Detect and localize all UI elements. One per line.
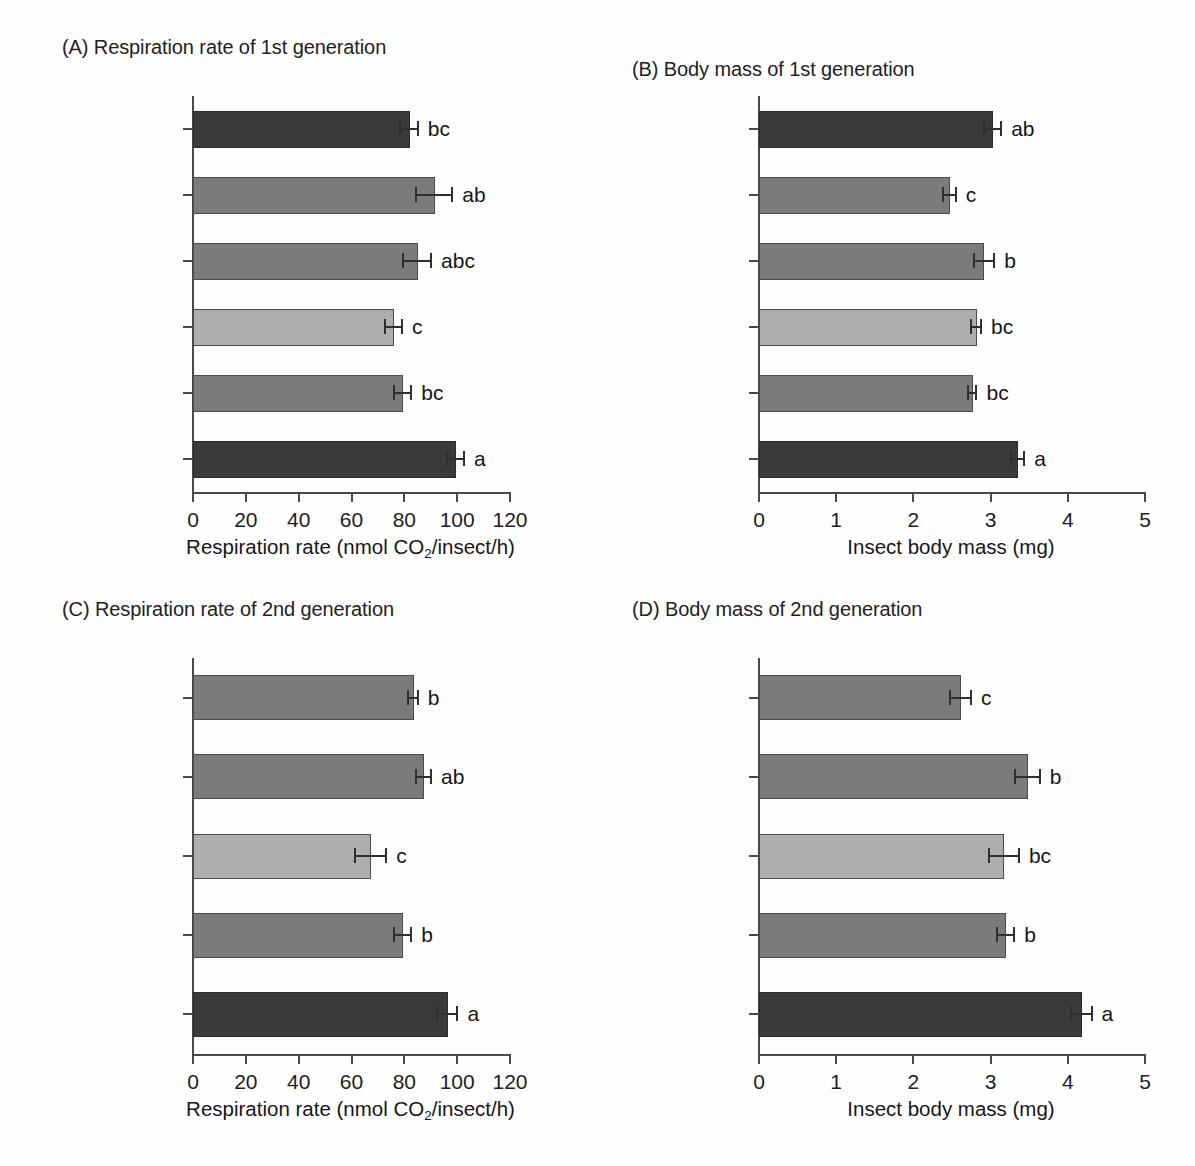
error-bar-cap-left — [949, 690, 951, 705]
x-tick-label: 80 — [393, 1070, 416, 1094]
significance-label: c — [412, 315, 423, 339]
error-bar-cap-right — [1000, 121, 1002, 136]
significance-label: c — [966, 183, 977, 207]
error-bar-cap-right — [1091, 1006, 1093, 1021]
axis-title-part: /insect/h) — [432, 535, 515, 558]
x-tick — [912, 1056, 914, 1064]
x-tick — [758, 494, 760, 502]
x-tick — [1067, 1056, 1069, 1064]
x-tick-label: 20 — [234, 508, 257, 532]
x-tick-label: 120 — [492, 508, 527, 532]
error-bar-cap-right — [417, 690, 419, 705]
y-tick — [183, 776, 192, 778]
y-tick — [183, 1013, 192, 1015]
plot-area: 012345cbbcba — [758, 658, 1144, 1054]
error-bar-cap-right — [430, 769, 432, 784]
x-tick — [1067, 494, 1069, 502]
y-tick — [749, 260, 758, 262]
x-tick-label: 40 — [287, 508, 310, 532]
y-tick — [183, 260, 192, 262]
y-tick — [183, 855, 192, 857]
significance-label: a — [467, 1002, 479, 1026]
y-tick — [749, 855, 758, 857]
bar — [193, 675, 414, 720]
significance-label: a — [1102, 1002, 1114, 1026]
error-bar — [973, 260, 995, 262]
y-tick — [749, 697, 758, 699]
axis-title-subscript: 2 — [424, 546, 432, 561]
error-bar-cap-left — [393, 385, 395, 400]
significance-label: b — [1024, 923, 1036, 947]
error-bar-cap-left — [1010, 451, 1012, 466]
error-bar — [446, 458, 464, 460]
error-bar-cap-right — [463, 451, 465, 466]
x-axis-title: Respiration rate (nmol CO2/insect/h) — [186, 1097, 515, 1123]
error-bar — [942, 194, 956, 196]
x-tick-label: 0 — [187, 508, 199, 532]
y-tick — [749, 392, 758, 394]
error-bar-cap-left — [1070, 1006, 1072, 1021]
y-tick — [183, 392, 192, 394]
x-tick — [351, 494, 353, 502]
significance-label: a — [474, 447, 486, 471]
bar — [759, 754, 1028, 799]
error-bar-cap-right — [975, 385, 977, 400]
x-tick — [298, 494, 300, 502]
error-bar-cap-right — [1023, 451, 1025, 466]
x-tick — [835, 494, 837, 502]
x-tick-label: 20 — [234, 1070, 257, 1094]
error-bar-cap-left — [393, 927, 395, 942]
x-axis-title: Insect body mass (mg) — [847, 1097, 1054, 1121]
bar — [193, 111, 410, 148]
bar — [193, 375, 403, 412]
bar — [759, 375, 973, 412]
error-bar-cap-left — [967, 385, 969, 400]
axis-title-part: /insect/h) — [432, 1097, 515, 1120]
significance-label: ab — [1011, 117, 1034, 141]
x-tick-label: 60 — [340, 508, 363, 532]
bar — [759, 309, 977, 346]
y-tick — [749, 776, 758, 778]
error-bar — [988, 855, 1019, 857]
x-tick-label: 5 — [1139, 508, 1151, 532]
figure-root: (A) Respiration rate of 1st generationTh… — [0, 0, 1195, 1166]
panel-title: (B) Body mass of 1st generation — [632, 58, 915, 81]
significance-label: abc — [441, 249, 475, 273]
error-bar-cap-right — [410, 927, 412, 942]
panel-title: (D) Body mass of 2nd generation — [632, 598, 922, 621]
error-bar-cap-right — [430, 253, 432, 268]
error-bar-cap-left — [996, 927, 998, 942]
error-bar-cap-right — [417, 121, 419, 136]
x-tick-label: 40 — [287, 1070, 310, 1094]
x-tick — [509, 494, 511, 502]
significance-label: bc — [986, 381, 1008, 405]
x-tick-label: 80 — [393, 508, 416, 532]
y-tick — [183, 128, 192, 130]
error-bar — [354, 855, 386, 857]
error-bar — [393, 934, 411, 936]
bar — [193, 913, 403, 958]
error-bar-cap-left — [399, 121, 401, 136]
x-tick-label: 4 — [1062, 508, 1074, 532]
y-axis-line — [758, 96, 760, 492]
y-tick — [749, 326, 758, 328]
error-bar — [949, 697, 971, 699]
x-tick-label: 1 — [830, 1070, 842, 1094]
error-bar-cap-right — [456, 1006, 458, 1021]
bar — [759, 177, 950, 214]
x-tick — [758, 1056, 760, 1064]
error-bar — [393, 392, 411, 394]
x-tick — [245, 1056, 247, 1064]
x-axis-line — [758, 1054, 1146, 1056]
error-bar-cap-left — [970, 319, 972, 334]
y-tick — [749, 194, 758, 196]
error-bar-cap-right — [401, 319, 403, 334]
error-bar-cap-right — [1013, 927, 1015, 942]
y-axis-line — [192, 96, 194, 492]
significance-label: b — [421, 923, 433, 947]
significance-label: b — [428, 686, 440, 710]
x-tick-label: 60 — [340, 1070, 363, 1094]
error-bar — [399, 128, 417, 130]
error-bar-cap-left — [446, 451, 448, 466]
x-tick-label: 5 — [1139, 1070, 1151, 1094]
